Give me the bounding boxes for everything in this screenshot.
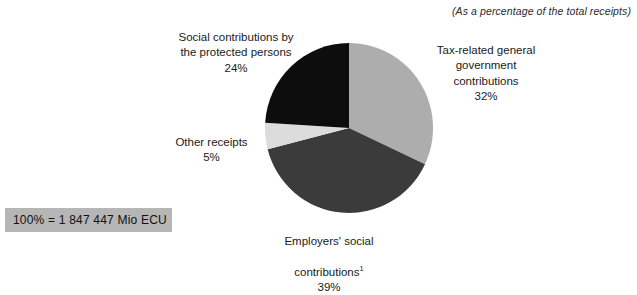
pie-label-tax-related: Tax-related general government contribut… (396, 27, 576, 120)
chart-subtitle-note: (As a percentage of the total receipts) (452, 5, 631, 17)
pie-label-social-text: Social contributions by the protected pe… (178, 31, 293, 59)
pie-label-social-percent: 24% (148, 61, 324, 77)
pie-label-tax-percent: 32% (396, 89, 576, 105)
pie-label-employers-social: Employers' social contributions1 39% (243, 218, 415, 295)
pie-label-tax-text: Tax-related general government contribut… (437, 44, 535, 87)
pie-label-employers-percent: 39% (243, 280, 415, 295)
pie-label-other-text: Other receipts (175, 136, 247, 148)
pie-label-social-contributions: Social contributions by the protected pe… (148, 14, 324, 92)
footnote-marker: 1 (360, 264, 364, 273)
pie-label-employers-text2: contributions (294, 266, 359, 278)
total-value-box: 100% = 1 847 447 Mio ECU (5, 208, 172, 232)
pie-label-other-receipts: Other receipts 5% (160, 119, 263, 181)
pie-label-employers-text: Employers' social (284, 235, 373, 247)
pie-label-other-percent: 5% (160, 150, 263, 166)
